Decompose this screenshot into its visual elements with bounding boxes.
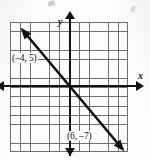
point-label-lower-right: (6, –7): [66, 131, 93, 141]
y-axis-label: y: [58, 16, 62, 27]
coordinate-plane-figure: y x (–4, 5) (6, –7): [0, 0, 150, 160]
x-axis-label: x: [138, 70, 143, 81]
line-segment: [25, 33, 120, 146]
point-label-upper-left: (–4, 5): [11, 53, 38, 63]
